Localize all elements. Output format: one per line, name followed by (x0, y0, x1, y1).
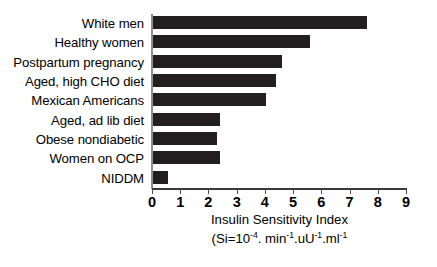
units-exponent-ml-inverse: -1 (340, 230, 348, 240)
bar-obese-nondiabetic (152, 132, 217, 145)
x-tick-label: 6 (309, 193, 333, 211)
bar-mexican-americans (152, 93, 266, 106)
category-label: Aged, ad lib diet (51, 111, 144, 130)
category-label: NIDDM (101, 169, 144, 188)
x-tick-label: 7 (338, 193, 362, 211)
units-exponent-minus4: -4 (250, 230, 258, 240)
bar-white-men (152, 16, 367, 29)
x-tick-label: 1 (168, 193, 192, 211)
category-label: Aged, high CHO diet (25, 72, 144, 91)
category-axis-labels: White men Healthy women Postpartum pregn… (0, 14, 148, 188)
units-exponent-uu-inverse: -1 (315, 230, 323, 240)
units-exponent-min-inverse: -1 (286, 230, 294, 240)
x-tick-label: 2 (196, 193, 220, 211)
bar-healthy-women (152, 35, 310, 48)
units-mid-ml: .ml (322, 231, 340, 246)
units-mid-min: . min (258, 231, 287, 246)
category-label: White men (82, 14, 144, 33)
x-tick-label: 3 (225, 193, 249, 211)
category-label: Postpartum pregnancy (13, 53, 144, 72)
category-label: Healthy women (54, 33, 144, 52)
category-label: Obese nondiabetic (36, 130, 144, 149)
x-tick-label: 9 (394, 193, 418, 211)
category-label: Mexican Americans (31, 91, 144, 110)
x-axis-line (152, 188, 407, 190)
y-axis-line (151, 14, 153, 189)
bar-postpartum-pregnancy (152, 55, 282, 68)
bar-aged-ad-lib-diet (152, 113, 220, 126)
x-tick-label: 4 (253, 193, 277, 211)
bar-aged-high-cho-diet (152, 74, 276, 87)
x-axis-title: Insulin Sensitivity Index (152, 212, 407, 228)
bar-women-on-ocp (152, 151, 220, 164)
insulin-sensitivity-bar-chart: White men Healthy women Postpartum pregn… (0, 0, 437, 267)
x-axis-units: (Si=10-4. min-1.uU-1.ml-1 (152, 231, 407, 247)
plot-area (152, 14, 406, 188)
bar-niddm (152, 171, 168, 184)
category-label: Women on OCP (49, 149, 144, 168)
x-tick-label: 8 (366, 193, 390, 211)
x-tick-label: 5 (281, 193, 305, 211)
x-tick-label: 0 (140, 193, 164, 211)
units-mid-uu: .uU (294, 231, 315, 246)
units-prefix: (Si=10 (212, 231, 251, 246)
